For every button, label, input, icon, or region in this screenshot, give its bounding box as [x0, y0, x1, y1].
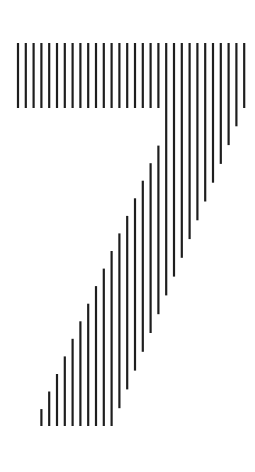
hatched-numeral-seven [0, 0, 255, 472]
